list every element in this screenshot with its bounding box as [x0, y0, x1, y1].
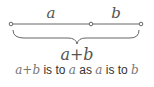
brace: [13, 30, 139, 44]
caption-ab: a+b: [15, 63, 40, 77]
endpoint-left: [9, 22, 13, 26]
caption-a: a: [69, 63, 76, 77]
label-a: a: [47, 4, 56, 22]
label-b: b: [111, 4, 121, 22]
endpoint-right: [139, 22, 143, 26]
caption-text: as: [76, 63, 95, 77]
caption-text: is to: [40, 63, 69, 77]
caption-text: is to: [102, 63, 131, 77]
division-point: [89, 22, 93, 26]
caption-b: b: [131, 63, 139, 77]
caption: a+b is to a as a is to b: [0, 63, 154, 77]
label-total: a+b: [60, 45, 93, 64]
